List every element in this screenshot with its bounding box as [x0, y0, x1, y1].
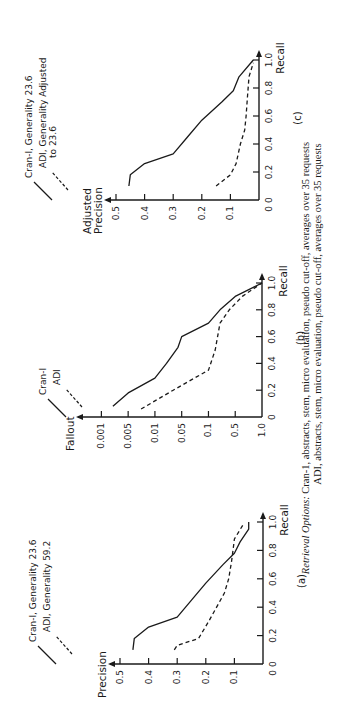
y-axis-title: Fallout: [64, 416, 76, 451]
legend-label-dashed: ADI, Generality 59.2: [42, 541, 52, 632]
y-tick-label: 0.3: [168, 206, 178, 220]
dashed-series-line: [174, 525, 243, 650]
x-tick-label: 0: [264, 197, 274, 203]
y-tick-label: 0.001: [96, 423, 106, 449]
y-tick-label: 0.4: [144, 670, 154, 685]
origin-label: 0: [264, 206, 274, 212]
legend-label-solid: Cran-I, Generality 23.6: [28, 539, 38, 642]
solid-series-line: [113, 283, 262, 406]
x-tick-label: 0.4: [264, 137, 274, 152]
x-tick-label: 0: [268, 661, 278, 667]
y-axis-arrow-icon: [108, 661, 115, 667]
caption-line-2: ADI, abstracts, stem, micro evaluation, …: [312, 0, 324, 716]
legend-label-solid: Cran-I: [38, 368, 48, 395]
legend-solid-swatch: [48, 399, 66, 417]
y-tick-label: 0.4: [140, 206, 150, 221]
y-axis-arrow-icon: [104, 197, 111, 203]
y-tick-label: 0.1: [203, 423, 213, 437]
x-tick-label: 0.2: [264, 165, 274, 179]
x-axis-arrow-icon: [260, 512, 266, 519]
x-tick-label: 0.6: [267, 329, 277, 344]
legend-label-dashed: ADI, Generality Adjusted: [38, 57, 48, 168]
x-tick-label: 0.8: [267, 302, 277, 317]
x-tick-label: 0.8: [264, 81, 274, 96]
x-tick-label: 0.6: [268, 571, 278, 586]
solid-series-line: [133, 522, 249, 650]
y-tick-label: 0.5: [111, 206, 121, 220]
panel-b-chart: 00.20.40.60.81.0Recall1.00.50.10.050.010…: [38, 265, 306, 451]
legend-label-dashed: ADI: [52, 369, 62, 385]
x-tick-label: 1.0: [267, 276, 277, 291]
y-tick-label: 0.5: [115, 670, 125, 684]
dashed-series-line: [141, 283, 262, 409]
x-axis-title: Recall: [277, 265, 289, 296]
figure: 00.20.40.60.81.0Recall0.10.20.30.40.50Pr…: [0, 0, 341, 716]
x-axis-arrow-icon: [256, 50, 262, 57]
y-axis-arrow-icon: [76, 414, 83, 420]
y-tick-label: 0.05: [177, 423, 187, 443]
x-tick-label: 0.2: [268, 628, 278, 642]
x-tick-label: 1.0: [264, 53, 274, 68]
y-axis-title: Precision: [96, 651, 108, 698]
y-tick-label: 0.005: [123, 423, 133, 449]
y-tick-label: 0.5: [230, 423, 240, 437]
legend-label-dashed: to 23.6: [48, 126, 58, 158]
y-tick-label: 1.0: [257, 423, 267, 438]
legend-solid-swatch: [38, 646, 56, 664]
legend-dashed-swatch: [56, 636, 72, 654]
panel-c-chart: 00.20.40.60.81.0Recall0.10.20.30.40.50Ad…: [24, 42, 303, 234]
solid-series-line: [129, 60, 253, 186]
y-axis-title: Precision: [92, 187, 104, 234]
y-tick-label: 0.3: [172, 670, 182, 684]
legend-dashed-swatch: [66, 389, 82, 407]
x-tick-label: 0.8: [268, 543, 278, 558]
dashed-series-line: [216, 63, 253, 186]
y-tick-label: 0.01: [150, 423, 160, 443]
charts-canvas: 00.20.40.60.81.0Recall0.10.20.30.40.50Pr…: [0, 0, 341, 716]
x-axis-title: Recall: [274, 42, 286, 73]
y-tick-label: 0.2: [201, 670, 211, 684]
origin-label: 0: [268, 670, 278, 676]
legend-label-solid: Cran-I, Generality 23.6: [24, 75, 34, 178]
x-tick-label: 0.6: [264, 109, 274, 124]
legend-dashed-swatch: [52, 172, 68, 190]
y-tick-label: 0.2: [197, 206, 207, 220]
x-tick-label: 0: [267, 414, 277, 420]
x-axis-title: Recall: [278, 504, 290, 535]
legend-solid-swatch: [34, 182, 52, 200]
x-tick-label: 0.4: [268, 600, 278, 615]
caption-prefix: Retrieval Options:: [300, 496, 311, 574]
x-axis-arrow-icon: [259, 273, 265, 280]
panel-a-chart: 00.20.40.60.81.0Recall0.10.20.30.40.50Pr…: [28, 504, 307, 698]
caption-line-1: Cran-1, abstracts, stem, micro evaluatio…: [300, 142, 311, 494]
x-tick-label: 1.0: [268, 515, 278, 530]
y-tick-label: 0.1: [225, 206, 235, 220]
x-tick-label: 0.2: [267, 383, 277, 397]
y-tick-label: 0.1: [229, 670, 239, 684]
x-tick-label: 0.4: [267, 356, 277, 371]
figure-caption: Retrieval Options: Cran-1, abstracts, st…: [300, 0, 324, 716]
